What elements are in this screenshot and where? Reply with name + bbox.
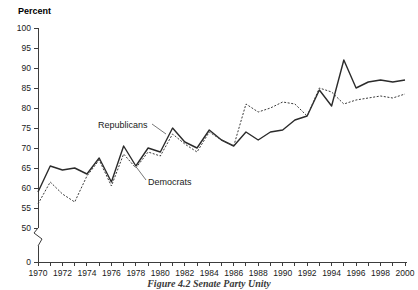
y-tick-label: 75	[22, 123, 32, 133]
axes-group: 1009590858075706560555001970197219741976…	[17, 23, 415, 278]
x-tick-label: 2000	[396, 268, 415, 278]
x-tick-label: 1984	[200, 268, 219, 278]
y-tick-label: 65	[22, 163, 32, 173]
x-tick-label: 1992	[298, 268, 317, 278]
y-tick-label: 55	[22, 203, 32, 213]
figure-container: 1009590858075706560555001970197219741976…	[0, 0, 418, 290]
x-tick-label: 1980	[151, 268, 170, 278]
y-tick-label: 90	[22, 63, 32, 73]
data-series-group	[38, 60, 405, 204]
annotation-labels-group	[137, 124, 166, 180]
x-tick-label: 1990	[273, 268, 292, 278]
x-tick-label: 1998	[371, 268, 390, 278]
x-tick-label: 1970	[29, 268, 48, 278]
x-tick-label: 1978	[126, 268, 145, 278]
series-line-republicans	[38, 60, 405, 192]
senate-party-unity-chart: 1009590858075706560555001970197219741976…	[0, 0, 418, 290]
y-tick-label: 70	[22, 143, 32, 153]
leader-line-republicans	[152, 124, 166, 134]
leader-line-democrats	[137, 168, 146, 180]
y-tick-label: 80	[22, 103, 32, 113]
series-line-democrats	[38, 88, 405, 204]
x-tick-label: 1986	[224, 268, 243, 278]
y-tick-label: 95	[22, 43, 32, 53]
x-tick-label: 1976	[102, 268, 121, 278]
x-tick-label: 1974	[77, 268, 96, 278]
y-tick-label: 0	[26, 257, 31, 267]
x-tick-label: 1996	[347, 268, 366, 278]
x-tick-label: 1994	[322, 268, 341, 278]
x-tick-label: 1972	[53, 268, 72, 278]
x-tick-label: 1982	[175, 268, 194, 278]
x-tick-label: 1988	[249, 268, 268, 278]
y-tick-label: 50	[22, 223, 32, 233]
y-tick-label: 100	[17, 23, 31, 33]
y-axis-break-icon	[34, 228, 42, 246]
y-tick-label: 60	[22, 183, 32, 193]
y-tick-label: 85	[22, 83, 32, 93]
